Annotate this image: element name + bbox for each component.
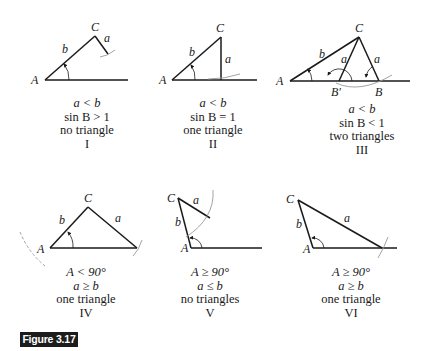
panel-vi-numeral: VI — [291, 307, 411, 321]
panel-i-drawing: A C b a — [30, 20, 128, 87]
panel-ii-swing-arc — [208, 74, 240, 79]
panel-ii-condition-sine: sin B = 1 — [153, 111, 273, 125]
panel-iv-drawing: A C b a — [20, 191, 142, 266]
panel-vi-side-b-label: b — [296, 217, 302, 231]
panel-iii-caption: a < b sin B < 1 two triangles III — [302, 103, 422, 158]
panel-vi-drawing: A C b a — [286, 192, 397, 258]
panel-ii-side-b-label: b — [189, 45, 195, 59]
panel-v-angle-arc — [190, 238, 202, 248]
panel-v-side-a-label: a — [193, 193, 199, 207]
panel-i-angle-arc — [64, 64, 69, 80]
panel-i-side-b — [45, 36, 95, 80]
panel-iii-vertex-c: C — [355, 21, 364, 35]
panel-v-vertex-a: A — [180, 241, 189, 255]
panel-i-result: no triangle — [27, 124, 147, 138]
panel-v-drawing: A C b a — [167, 190, 262, 255]
panel-iii-side-b-label: b — [319, 47, 325, 61]
panel-ii-side-a-label: a — [225, 52, 231, 66]
panel-iv-side-a — [88, 207, 137, 248]
panel-iii-vertex-b-prime: B′ — [331, 85, 341, 99]
panel-iv-condition-angle: A < 90° — [26, 266, 146, 280]
panel-ii-side-b — [172, 37, 221, 80]
panel-ii-vertex-a: A — [158, 73, 167, 87]
panel-iii-vertex-a: A — [275, 74, 284, 88]
panel-iii-result: two triangles — [302, 130, 422, 144]
panel-vi-caption: A ≥ 90° a ≥ b one triangle VI — [291, 266, 411, 321]
panel-iii-numeral: III — [302, 144, 422, 158]
panel-iv-side-a-label: a — [115, 211, 121, 225]
panel-iii-drawing: A C B′ B b a a — [275, 21, 410, 99]
panel-vi-angle-arc — [312, 238, 324, 248]
panel-iv-caption: A < 90° a ≥ b one triangle IV — [26, 266, 146, 321]
panel-iii-angle-arc-a — [308, 69, 312, 81]
panel-vi-side-a-label: a — [344, 211, 350, 225]
panel-i-condition-sine: sin B > 1 — [27, 111, 147, 125]
panel-v-vertex-c: C — [167, 191, 176, 205]
panel-ii-caption: a < b sin B = 1 one triangle II — [153, 97, 273, 152]
panel-i-numeral: I — [27, 138, 147, 152]
panel-iii-side-a-label-1: a — [341, 52, 347, 66]
panel-vi-vertex-c: C — [286, 192, 295, 206]
panel-iii-vertex-b: B — [375, 85, 383, 99]
panel-iii-condition-sine: sin B < 1 — [302, 117, 422, 131]
panel-ii-numeral: II — [153, 138, 273, 152]
panel-v-numeral: V — [150, 307, 270, 321]
panel-ii-vertex-c: C — [216, 21, 225, 35]
panel-i-side-a-label: a — [104, 31, 110, 45]
panel-iii-angle-arc-b — [366, 67, 372, 77]
panel-i-vertex-a: A — [30, 73, 39, 87]
panel-v-result: no triangles — [150, 293, 270, 307]
panel-vi-vertex-a: A — [302, 242, 311, 256]
panel-vi-condition-sides: a ≥ b — [291, 280, 411, 294]
panel-v-condition-sides: a ≤ b — [150, 280, 270, 294]
figure-label: Figure 3.17 — [20, 332, 78, 347]
panel-i-side-b-label: b — [62, 42, 68, 56]
panel-iv-vertex-a: A — [36, 242, 45, 256]
panel-iv-side-b-label: b — [59, 213, 65, 227]
panel-iii-condition-sides: a < b — [302, 103, 422, 117]
panel-v-caption: A ≥ 90° a ≤ b no triangles V — [150, 266, 270, 321]
panel-iv-vertex-c: C — [84, 191, 93, 205]
panel-ii-result: one triangle — [153, 124, 273, 138]
panel-ii-angle-arc — [191, 65, 195, 80]
panel-iv-angle-arc — [68, 232, 73, 248]
panel-vi-condition-angle: A ≥ 90° — [291, 266, 411, 280]
panel-vi-result: one triangle — [291, 293, 411, 307]
panel-v-swing-arc — [186, 190, 213, 237]
panel-iv-result: one triangle — [26, 293, 146, 307]
panel-i-caption: a < b sin B > 1 no triangle I — [27, 97, 147, 152]
panel-iv-condition-sides: a ≥ b — [26, 280, 146, 294]
panel-v-side-b-label: b — [175, 215, 181, 229]
panel-iv-side-b — [50, 207, 88, 248]
panel-i-condition-sides: a < b — [27, 97, 147, 111]
panel-ii-condition-sides: a < b — [153, 97, 273, 111]
panel-i-vertex-c: C — [91, 20, 100, 34]
panel-iii-side-a-label-2: a — [374, 52, 380, 66]
panel-v-condition-angle: A ≥ 90° — [150, 266, 270, 280]
panel-iv-numeral: IV — [26, 307, 146, 321]
panel-ii-drawing: A C b a — [158, 21, 257, 87]
